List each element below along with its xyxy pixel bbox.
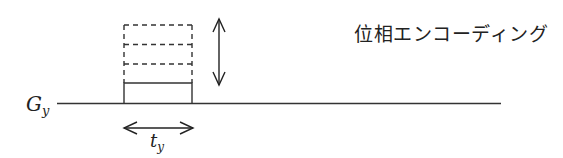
ty-duration-label: ty — [150, 130, 164, 154]
gradient-pulse — [124, 83, 192, 104]
phase-encoding-title: 位相エンコーディング — [354, 19, 548, 46]
amplitude-double-arrow-icon — [213, 19, 225, 85]
gy-axis-label: Gy — [26, 92, 49, 118]
phase-encoding-steps — [124, 25, 192, 83]
